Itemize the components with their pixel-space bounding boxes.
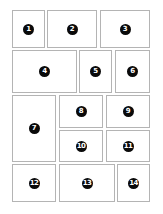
grid-cell-5: 5: [79, 50, 112, 93]
number-badge: 5: [90, 66, 101, 77]
grid-cell-4: 4: [12, 50, 77, 93]
grid-cell-6: 6: [115, 50, 150, 93]
number-badge: 3: [120, 24, 131, 35]
grid-cell-13: 13: [59, 164, 115, 202]
number-badge: 8: [76, 106, 87, 117]
grid-cell-9: 9: [106, 95, 150, 128]
grid-cell-10: 10: [59, 130, 103, 162]
number-badge: 7: [29, 123, 40, 134]
grid-cell-12: 12: [12, 164, 56, 202]
grid-cell-8: 8: [59, 95, 103, 128]
grid-cell-11: 11: [106, 130, 150, 162]
grid-cell-14: 14: [117, 164, 150, 202]
number-badge: 13: [82, 178, 93, 189]
number-badge: 12: [29, 178, 40, 189]
number-badge: 11: [123, 141, 134, 152]
number-badge: 4: [39, 66, 50, 77]
number-badge: 10: [76, 141, 87, 152]
grid-cell-3: 3: [100, 10, 150, 48]
number-badge: 2: [67, 24, 78, 35]
grid-cell-2: 2: [47, 10, 97, 48]
number-badge: 14: [128, 178, 139, 189]
grid-cell-7: 7: [12, 95, 56, 162]
grid-cell-1: 1: [12, 10, 45, 48]
number-badge: 9: [123, 106, 134, 117]
number-badge: 6: [127, 66, 138, 77]
number-badge: 1: [23, 24, 34, 35]
